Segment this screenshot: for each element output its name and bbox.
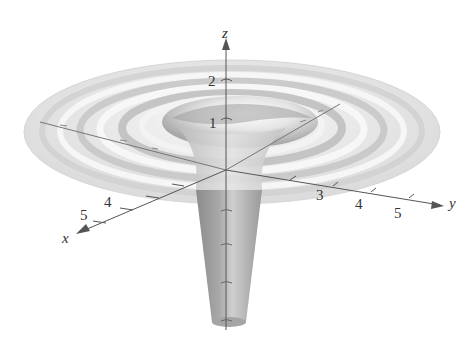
x-axis-label: x (62, 231, 69, 246)
surface-plot (0, 0, 468, 349)
y-tick-4: 4 (355, 197, 363, 212)
z-tick-1: 1 (209, 116, 217, 131)
x-tick-5: 5 (80, 208, 88, 223)
y-axis-label: y (449, 196, 456, 211)
z-tick-2: 2 (208, 74, 216, 89)
y-tick-5: 5 (394, 206, 402, 221)
x-tick-4: 4 (104, 195, 112, 210)
y-axis-arrow (431, 201, 444, 209)
x-axis-arrow (76, 224, 90, 234)
y-tick-3: 3 (316, 188, 324, 203)
z-axis-label: z (222, 26, 228, 41)
funnel-lower (196, 190, 262, 327)
